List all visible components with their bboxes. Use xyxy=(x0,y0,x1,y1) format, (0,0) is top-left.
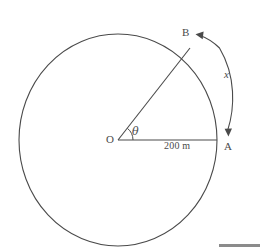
arrow-head-toward-a xyxy=(225,129,232,137)
arc-arrow-path xyxy=(200,35,233,131)
arrow-head-toward-b xyxy=(196,32,204,40)
diagram-canvas: O A B θ x 200 m xyxy=(0,0,262,252)
bottom-edge-artifact xyxy=(219,244,260,247)
label-centre-o: O xyxy=(106,134,114,145)
label-point-b: B xyxy=(182,27,189,38)
radius-ob-line xyxy=(118,48,190,140)
label-radius-length: 200 m xyxy=(164,141,190,151)
label-point-a: A xyxy=(224,141,232,152)
label-angle-theta: θ xyxy=(132,126,139,137)
geometry-figure xyxy=(0,0,262,252)
label-arc-x: x xyxy=(224,69,229,80)
